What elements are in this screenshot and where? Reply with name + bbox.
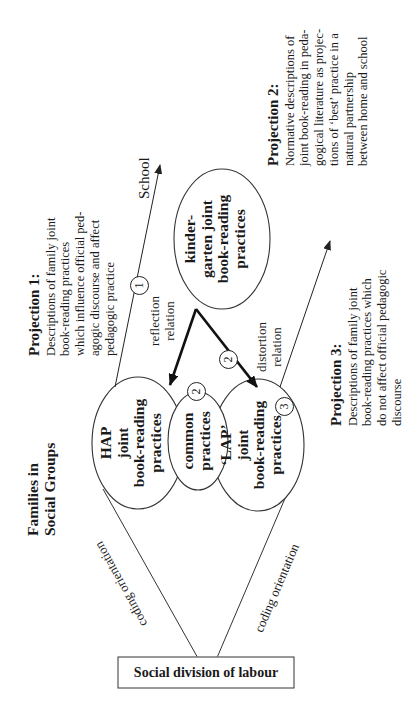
kindergarten-line-3: book-reading [215,174,232,304]
kindergarten-line-4: practices [232,174,249,304]
social-division-of-labour-box: Social division of labour [118,657,295,689]
families-in-social-groups-label: Families in Social Groups [24,436,59,536]
social-division-label: Social division of labour [134,665,278,681]
marker-2-distortion: 2 [219,350,238,369]
projection-1: Projection 1: Descriptions of family joi… [26,166,117,356]
reflection-relation-label: reflection relation [148,281,177,361]
hap-line-3: book-reading [131,383,148,503]
kindergarten-line-2: garten joint [199,174,216,304]
hap-ellipse-text: HAP joint book-reading practices [98,383,165,503]
kindergarten-line-1: kinder- [182,174,199,304]
marker-3: 3 [275,397,294,416]
lap-line-3: book-reading [251,385,268,505]
projection-2-title: Projection 2: [265,0,283,166]
projection-3: Projection 3: Descriptions of family joi… [328,226,405,426]
lap-line-1: ‘LAP’ [218,385,235,505]
distortion-arrow [196,309,257,387]
marker-2-reflection: 2 [187,382,206,401]
common-line-1: common [180,391,197,491]
hap-line-2: joint [115,383,132,503]
projection-3-title: Projection 3: [328,226,346,426]
diagram-canvas: Social division of labour coding orienta… [0,0,419,721]
common-line-2: practices [197,391,214,491]
kindergarten-ellipse-text: kinder- garten joint book-reading practi… [182,174,249,304]
distortion-relation-label: distortion relation [255,307,284,387]
hap-line-1: HAP [98,383,115,503]
projection-2: Projection 2: Normative descriptions of … [265,0,371,166]
projection-1-title: Projection 1: [26,166,44,356]
marker-1: 1 [130,276,149,295]
lap-line-2: joint [235,385,252,505]
common-ellipse-text: common practices [180,391,213,491]
projection-3-arrow [280,241,330,387]
school-label: School [136,157,153,199]
hap-line-4: practices [148,383,165,503]
